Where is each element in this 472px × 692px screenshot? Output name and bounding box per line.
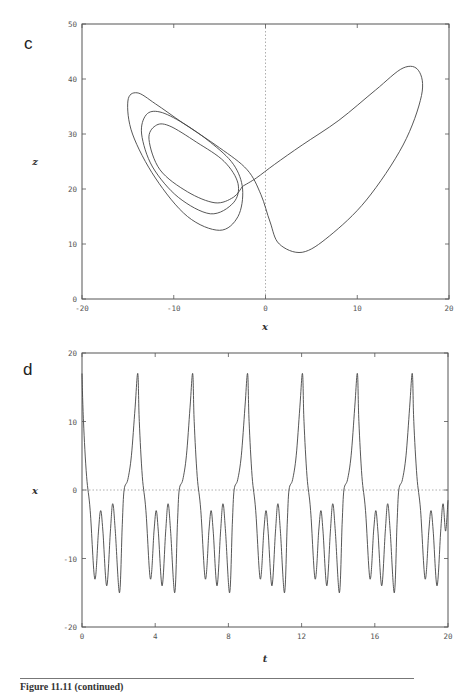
y-axis-title-c: z xyxy=(31,156,38,167)
d-xtick-label: 16 xyxy=(370,632,380,641)
d-ytick-label: -10 xyxy=(63,555,77,564)
c-xtick-label: 20 xyxy=(444,304,454,313)
c-ytick-label: 40 xyxy=(68,75,78,84)
c-ytick-label: 30 xyxy=(68,130,78,139)
time-series-chart: 048121620-20-1001020 t x xyxy=(31,349,453,664)
c-xtick-label: 0 xyxy=(263,304,268,313)
d-xtick-label: 8 xyxy=(226,632,231,641)
d-xtick-label: 12 xyxy=(297,632,306,641)
c-ytick-label: 50 xyxy=(68,20,78,29)
phase-portrait-chart: -20-100102001020304050 x z xyxy=(31,20,454,332)
c-xtick-label: -10 xyxy=(167,304,181,313)
d-xtick-label: 0 xyxy=(80,632,85,641)
c-ytick-label: 10 xyxy=(68,240,78,249)
c-xtick-label: -20 xyxy=(75,304,89,313)
axis-ticks-d: 048121620-20-1001020 xyxy=(63,349,453,641)
time-series-curve xyxy=(82,373,448,592)
figure-caption: Figure 11.11 (continued) xyxy=(20,681,123,692)
d-xtick-label: 4 xyxy=(153,632,158,641)
x-axis-title-d: t xyxy=(263,653,268,664)
c-ytick-label: 0 xyxy=(72,295,77,304)
axis-ticks-c: -20-100102001020304050 xyxy=(68,20,454,313)
d-xtick-label: 20 xyxy=(443,632,453,641)
d-ytick-label: 10 xyxy=(68,418,78,427)
c-xtick-label: 10 xyxy=(353,304,363,313)
y-axis-title-d: x xyxy=(31,485,39,496)
d-ytick-label: 0 xyxy=(72,486,77,495)
c-ytick-label: 20 xyxy=(68,185,78,194)
x-axis-title-c: x xyxy=(261,321,269,332)
d-ytick-label: -20 xyxy=(63,623,77,632)
trajectory-curve xyxy=(128,66,423,252)
caption-divider xyxy=(20,678,414,679)
d-ytick-label: 20 xyxy=(68,349,78,358)
